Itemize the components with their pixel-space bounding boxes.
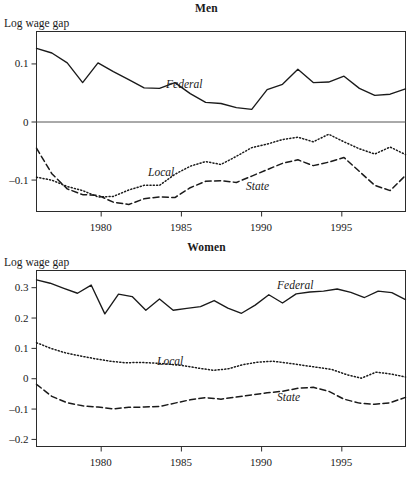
series-line-local bbox=[37, 134, 406, 197]
x-tick-label: 1980 bbox=[90, 221, 113, 233]
y-tick-label: 0.1 bbox=[15, 57, 29, 69]
series-label-state-men: State bbox=[246, 180, 269, 192]
series-label-local-men: Local bbox=[147, 166, 174, 178]
series-line-federal bbox=[37, 280, 406, 314]
y-tick-label: 0 bbox=[23, 116, 29, 128]
plot-area-men: 0.10–0.11980198519901995 Federal Local S… bbox=[0, 0, 413, 238]
y-tick-label: 0 bbox=[23, 372, 29, 384]
series-line-state bbox=[37, 384, 406, 409]
figure-log-wage-gap: Men Log wage gap 0.10–0.1198019851990199… bbox=[0, 0, 413, 478]
y-tick-label: –0.1 bbox=[8, 403, 28, 415]
series-label-state-women: State bbox=[277, 391, 300, 403]
y-tick-label: 0.1 bbox=[15, 342, 29, 354]
series-group-men bbox=[37, 48, 406, 204]
series-line-state bbox=[37, 148, 406, 204]
chart-panel-women: Women Log wage gap 0.30.20.10–0.1–0.2198… bbox=[0, 238, 413, 478]
y-tick-label: –0.1 bbox=[8, 174, 28, 186]
series-line-local bbox=[37, 343, 406, 379]
y-tick-label: 0.3 bbox=[15, 281, 29, 293]
chart-panel-men: Men Log wage gap 0.10–0.1198019851990199… bbox=[0, 0, 413, 238]
series-group-women bbox=[37, 280, 406, 409]
series-label-federal-men: Federal bbox=[165, 78, 202, 90]
series-line-federal bbox=[37, 48, 406, 109]
x-tick-label: 1995 bbox=[330, 221, 353, 233]
x-tick-label: 1980 bbox=[90, 456, 113, 468]
series-label-local-women: Local bbox=[156, 355, 183, 367]
plot-area-women: 0.30.20.10–0.1–0.21980198519901995 Feder… bbox=[0, 238, 413, 478]
x-tick-label: 1985 bbox=[170, 456, 193, 468]
x-tick-label: 1995 bbox=[330, 456, 353, 468]
series-label-federal-women: Federal bbox=[276, 279, 313, 291]
y-tick-label: –0.2 bbox=[8, 433, 28, 445]
x-tick-label: 1985 bbox=[170, 221, 193, 233]
x-tick-label: 1990 bbox=[250, 456, 273, 468]
x-tick-label: 1990 bbox=[250, 221, 273, 233]
y-tick-label: 0.2 bbox=[15, 312, 29, 324]
